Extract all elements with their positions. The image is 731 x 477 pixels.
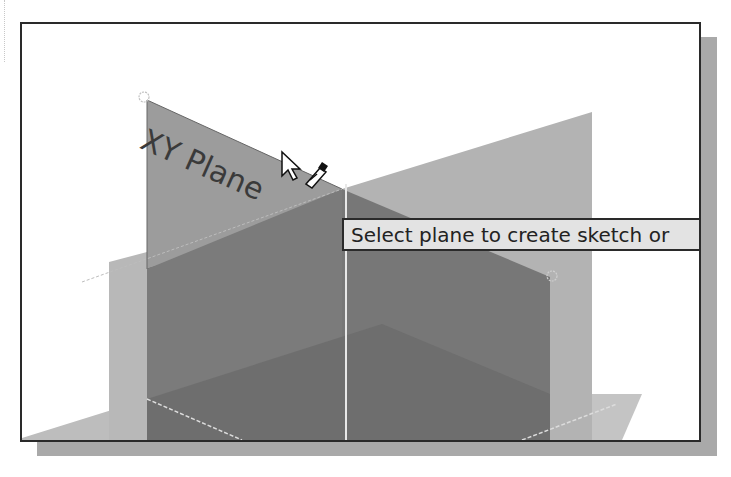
left-edge-artifact — [0, 0, 5, 62]
graphics-viewport[interactable]: XY Plane Select plane to create sketch o… — [20, 22, 701, 442]
tooltip: Select plane to create sketch or — [342, 218, 701, 251]
yz-plane-left[interactable] — [109, 252, 147, 440]
arrow-cursor-with-sketch-pencil-icon — [280, 150, 340, 200]
corner-handle-icon[interactable] — [139, 92, 149, 102]
